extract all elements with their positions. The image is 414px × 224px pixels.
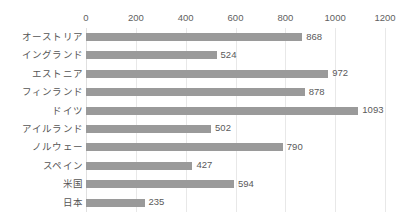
category-label: スペイン xyxy=(43,159,83,172)
bar[interactable] xyxy=(86,70,328,78)
bar-value-label: 972 xyxy=(332,67,348,79)
bar-row: アイルランド502 xyxy=(0,120,414,138)
category-label: フィンランド xyxy=(22,85,83,98)
bar-row: ノルウェー790 xyxy=(0,138,414,156)
bar-row: フィンランド878 xyxy=(0,83,414,101)
bar-row: 米国594 xyxy=(0,175,414,193)
category-label: ノルウェー xyxy=(32,140,83,153)
bar[interactable] xyxy=(86,125,211,133)
x-tick-label-600: 600 xyxy=(228,12,244,24)
bar[interactable] xyxy=(86,199,145,207)
bar-row: ドイツ1093 xyxy=(0,102,414,120)
bar[interactable] xyxy=(86,88,305,96)
bar-row: エストニア972 xyxy=(0,65,414,83)
bar-row: スペイン427 xyxy=(0,157,414,175)
category-label: アイルランド xyxy=(22,122,83,135)
category-label: 日本 xyxy=(63,196,83,209)
bar-chart: 020040060080010001200 オーストリア868イングランド524… xyxy=(0,0,414,224)
x-tick-label-1000: 1000 xyxy=(325,12,346,24)
bar-value-label: 790 xyxy=(287,141,303,153)
bar-value-label: 594 xyxy=(238,178,254,190)
bar-row: イングランド524 xyxy=(0,46,414,64)
bar-value-label: 427 xyxy=(196,159,212,171)
x-tick-label-800: 800 xyxy=(277,12,293,24)
category-label: エストニア xyxy=(32,67,83,80)
bar-rows: オーストリア868イングランド524エストニア972フィンランド878ドイツ10… xyxy=(0,28,414,212)
category-label: ドイツ xyxy=(52,104,83,117)
bar-value-label: 235 xyxy=(149,196,165,208)
x-axis-tick-labels: 020040060080010001200 xyxy=(0,12,414,26)
bar[interactable] xyxy=(86,143,283,151)
x-tick-label-1200: 1200 xyxy=(374,12,395,24)
category-label: オーストリア xyxy=(22,30,83,43)
category-label: イングランド xyxy=(22,48,83,61)
x-tick-label-200: 200 xyxy=(128,12,144,24)
bar[interactable] xyxy=(86,162,192,170)
category-label: 米国 xyxy=(63,177,83,190)
bar[interactable] xyxy=(86,107,358,115)
x-tick-label-0: 0 xyxy=(83,12,88,24)
bar-value-label: 524 xyxy=(221,49,237,61)
bar-value-label: 878 xyxy=(309,86,325,98)
bar-value-label: 1093 xyxy=(362,104,383,116)
bar[interactable] xyxy=(86,51,217,59)
bar-value-label: 868 xyxy=(306,31,322,43)
bar-row: オーストリア868 xyxy=(0,28,414,46)
bar-row: 日本235 xyxy=(0,194,414,212)
bar[interactable] xyxy=(86,180,234,188)
bar-value-label: 502 xyxy=(215,122,231,134)
x-tick-label-400: 400 xyxy=(178,12,194,24)
bar[interactable] xyxy=(86,33,302,41)
